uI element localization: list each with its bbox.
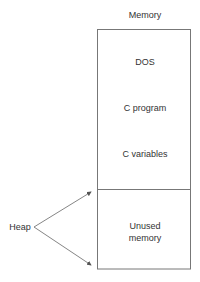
segment-c-variables: C variables (105, 149, 185, 160)
heap-arrow-bottom (34, 227, 91, 265)
segment-c-program: C program (105, 103, 185, 114)
heap-arrow-top (34, 192, 91, 227)
segment-unused-line1: Unused (110, 221, 180, 232)
memory-title: Memory (120, 10, 170, 21)
heap-label: Heap (6, 222, 34, 233)
segment-dos: DOS (110, 57, 180, 68)
segment-unused-line2: memory (110, 233, 180, 244)
